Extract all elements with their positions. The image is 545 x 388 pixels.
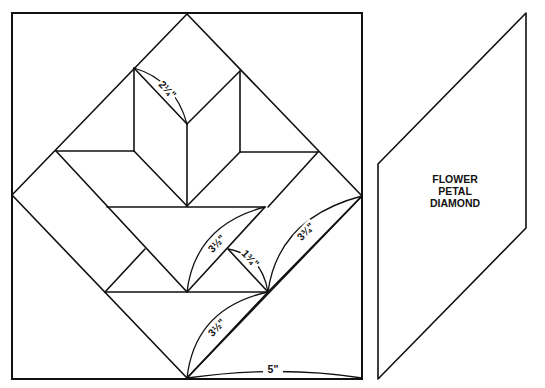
template-label-line: FLOWER: [400, 173, 510, 185]
template-label: FLOWER PETAL DIAMOND: [400, 173, 510, 209]
template-label-line: PETAL: [400, 185, 510, 197]
dimension-labels: 2¼" 3½" 1¾" 3¾" 3½" 5": [156, 77, 318, 375]
dimension-arcs: [134, 68, 362, 378]
leaf-section: [105, 196, 362, 378]
flower-petals: [56, 68, 318, 292]
dim-base-width: 5": [268, 363, 279, 375]
template-label-line: DIAMOND: [400, 197, 510, 209]
